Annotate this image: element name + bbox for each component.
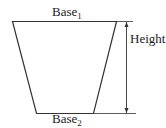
trapezoid-shape (13, 22, 117, 114)
top-base-label: Base1 (52, 4, 82, 21)
height-arrow-down-icon (125, 108, 129, 113)
bottom-base-subscript: 2 (77, 118, 82, 128)
height-label: Height (130, 31, 166, 46)
top-base-subscript: 1 (77, 11, 82, 21)
height-arrow-up-icon (125, 22, 129, 27)
trapezoid-diagram: Base1 Height Base2 (0, 0, 166, 128)
